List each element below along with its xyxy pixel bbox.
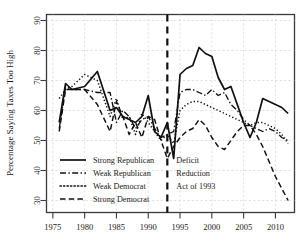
annotation-line-3: Act of 1993: [176, 182, 215, 191]
x-tick-label: 1995: [172, 222, 189, 232]
y-tick-label: 60: [32, 106, 42, 115]
y-tick-label: 80: [32, 46, 42, 55]
x-axis-ticks: [53, 213, 276, 219]
chart-legend: Strong RepublicanWeak RepublicanWeak Dem…: [60, 156, 154, 204]
series-line-weak-republican: [59, 87, 288, 141]
x-tick-label: 2010: [267, 222, 284, 232]
y-axis-tick-labels: 30405060708090: [32, 16, 42, 205]
y-tick-label: 70: [32, 76, 42, 85]
x-tick-label: 1985: [108, 222, 125, 232]
x-tick-label: 2000: [203, 222, 220, 232]
line-chart: 19751980198519901995200020052010 3040506…: [0, 0, 305, 252]
x-tick-label: 1990: [140, 222, 157, 232]
x-tick-label: 2005: [235, 222, 252, 232]
y-tick-label: 40: [32, 166, 42, 175]
x-axis-tick-labels: 19751980198519901995200020052010: [44, 222, 284, 232]
series-line-weak-democrat: [59, 75, 288, 144]
legend-label: Strong Republican: [93, 156, 154, 165]
y-tick-label: 90: [32, 16, 42, 25]
deficit-act-annotation: DeficitReductionAct of 1993: [176, 156, 215, 191]
chart-figure: 19751980198519901995200020052010 3040506…: [0, 0, 305, 252]
legend-label: Weak Democrat: [93, 182, 146, 191]
annotation-line-2: Reduction: [176, 169, 210, 178]
legend-label: Strong Democrat: [93, 195, 150, 204]
plot-frame: [47, 15, 295, 213]
y-tick-label: 50: [32, 136, 42, 145]
annotation-line-1: Deficit: [176, 156, 199, 165]
x-tick-label: 1980: [76, 222, 93, 232]
y-tick-label: 30: [32, 196, 42, 205]
x-tick-label: 1975: [44, 222, 61, 232]
legend-label: Weak Republican: [93, 169, 151, 178]
gridlines: [47, 15, 295, 213]
y-axis-title: Percentage Saying Taxes Too High: [5, 50, 15, 176]
